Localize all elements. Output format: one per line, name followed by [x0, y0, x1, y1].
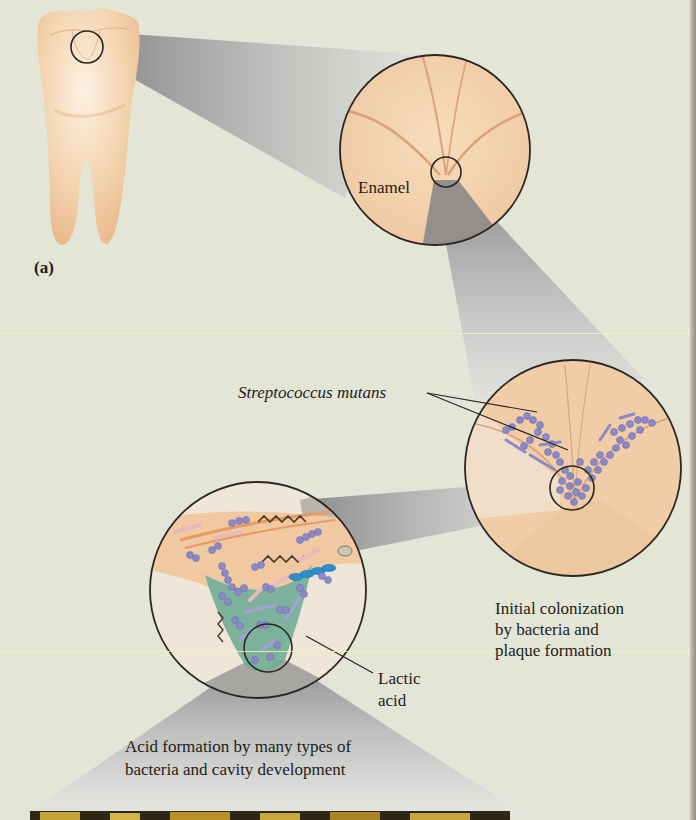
scan-artifact-line: [0, 333, 696, 334]
caption-line: bacteria and cavity development: [125, 758, 351, 781]
caption-line: plaque formation: [495, 640, 624, 661]
diagram-artwork: [0, 0, 696, 820]
label-line: acid: [378, 690, 420, 712]
cavity-caption: Acid formation by many types of bacteria…: [125, 735, 351, 781]
tooth-decay-diagram: (a) Enamel Streptococcus mutans Initial …: [0, 0, 696, 820]
micrograph-strip: [30, 811, 510, 820]
molar-tooth-illustration: [37, 8, 139, 245]
caption-line: by bacteria and: [495, 619, 624, 640]
caption-line: Initial colonization: [495, 598, 624, 619]
colonization-caption: Initial colonization by bacteria and pla…: [495, 598, 624, 661]
streptococcus-mutans-label: Streptococcus mutans: [238, 382, 386, 403]
enamel-label: Enamel: [358, 177, 410, 198]
panel-label: (a): [34, 257, 54, 278]
page-edge-shadow: [690, 0, 696, 820]
label-line: Lactic: [378, 668, 420, 690]
colonization-magnified-view: [427, 360, 690, 590]
caption-line: Acid formation by many types of: [125, 735, 351, 758]
lactic-acid-label: Lactic acid: [378, 668, 420, 712]
